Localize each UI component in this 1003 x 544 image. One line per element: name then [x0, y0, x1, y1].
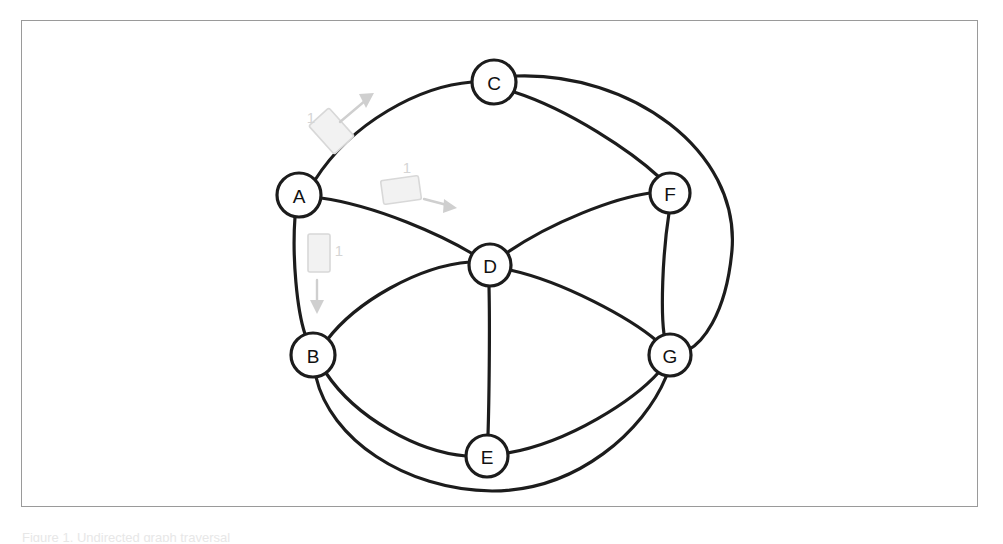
figure-frame [21, 20, 978, 507]
figure-page: 1 1 1 A B [0, 0, 1003, 544]
figure-caption-partial: Figure 1. Undirected graph traversal [22, 531, 482, 542]
